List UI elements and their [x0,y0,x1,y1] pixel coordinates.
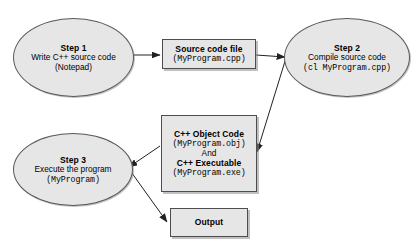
node-executable-filename: (MyProgram.exe) [172,168,245,178]
node-source-code-file-filename: (MyProgram.cpp) [172,54,245,64]
node-step3[interactable]: Step 3 Execute the program (MyProgram) [13,133,133,206]
node-output[interactable]: Output [170,208,248,237]
diagram-canvas: Step 1 Write C++ source code (Notepad) S… [0,0,415,250]
node-source-code-file-title: Source code file [175,44,242,54]
node-object-code-and-executable[interactable]: C++ Object Code (MyProgram.obj) And C++ … [161,115,257,192]
node-output-title: Output [195,217,223,227]
edge-source-file-to-step2 [256,55,285,57]
edge-step2-to-object-exec [257,58,286,152]
node-executable-label: C++ Executable [177,158,242,168]
node-step1-line3: (Notepad) [55,63,92,73]
node-object-code-and-word: And [202,149,217,159]
node-step3-line2: Execute the program [34,165,111,175]
node-step2[interactable]: Step 2 Compile source code (cl MyProgram… [284,18,410,97]
node-source-code-file[interactable]: Source code file (MyProgram.cpp) [162,39,256,69]
node-step2-line2: Compile source code [308,53,386,63]
node-object-code-label: C++ Object Code [174,129,244,139]
node-step1[interactable]: Step 1 Write C++ source code (Notepad) [13,18,134,97]
node-step3-command: (MyProgram) [46,175,100,185]
node-step2-command: (cl MyProgram.cpp) [303,63,391,73]
edge-object-exec-to-step3 [129,146,160,167]
